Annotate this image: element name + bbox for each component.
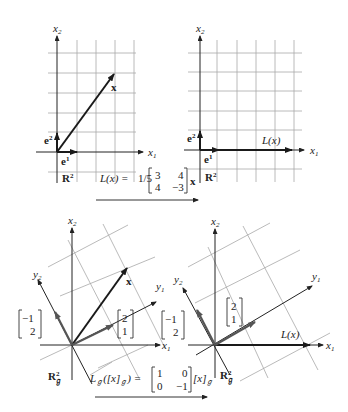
space-label-R2: R2 (205, 171, 217, 183)
matrix-cell-00: 3 (155, 169, 161, 181)
formula-lhs: L(x) = (99, 172, 129, 185)
bottom-right-panel: x2 x1 y1 y2 L(x) 2 1 −1 2 R2ℊ (162, 215, 334, 385)
vec-2-1-top: 2 (231, 300, 237, 312)
Lx-label: L(x) (280, 328, 300, 341)
formula-lhs: Lℊ([x]ℊ) = (89, 372, 141, 386)
top-transformation-formula: L(x) = 1/5 3 4 4 −3 x (96, 168, 198, 200)
matrix-cell-10: 0 (157, 380, 163, 392)
bottom-left-panel: x2 x1 y1 y2 x 2 1 −1 2 R2ℊ (19, 214, 170, 386)
x1-axis-label: x1 (147, 146, 156, 160)
vector-x-label: x (126, 275, 132, 287)
vec-neg1-2-top: −1 (22, 312, 34, 324)
y2-axis-label: y2 (32, 268, 42, 282)
matrix-cell-01: 4 (178, 169, 184, 181)
basis-vector-2-1 (215, 322, 255, 345)
e1-label: e1 (204, 153, 213, 165)
bracket-left (118, 310, 121, 338)
vec-neg1-2-bottom: 2 (30, 325, 36, 337)
bracket-right (38, 310, 41, 338)
vec-neg1-2-bottom: 2 (173, 326, 179, 338)
x2-axis-label: x2 (195, 22, 205, 36)
matrix-cell-01: 0 (182, 367, 188, 379)
x1-axis-label: x1 (309, 144, 318, 158)
top-left-panel: x2 x1 x e2 e1 R2 (36, 22, 156, 184)
matrix-right-bracket (188, 367, 191, 392)
matrix-cell-11: −1 (176, 380, 188, 392)
bottom-transformation-formula: Lℊ([x]ℊ) = 1 0 0 −1 [x]ℊ (89, 362, 213, 397)
x2-axis-label: x2 (52, 22, 62, 36)
skew-grid-lines (188, 223, 330, 381)
matrix-cell-10: 4 (155, 181, 161, 193)
bracket-right (239, 298, 242, 326)
y2-axis (183, 288, 230, 375)
basis-vector-neg1-2 (197, 310, 215, 345)
vec-2-1-bottom: 1 (231, 313, 237, 325)
scalar-fraction: 1/5 (138, 172, 153, 184)
linear-transformation-figure: x2 x1 x e2 e1 R2 x2 x1 L(x) e2 e1 (0, 0, 348, 412)
vector-x-label: x (111, 81, 117, 93)
e2-label: e2 (187, 132, 196, 144)
bracket-right (181, 311, 184, 339)
e2-label: e2 (44, 134, 53, 146)
space-label-R2-basis: R2ℊ (48, 370, 62, 386)
matrix-left-bracket (152, 367, 155, 392)
vec-2-1-top: 2 (122, 312, 128, 324)
y1-axis-label: y1 (311, 270, 320, 284)
matrix-right-bracket (184, 168, 187, 193)
Lx-label: L(x) (261, 134, 281, 147)
x1-axis-label: x1 (161, 339, 170, 353)
vec-neg1-2-top: −1 (165, 313, 177, 325)
x2-axis-label: x2 (67, 214, 77, 228)
e1-label: e1 (61, 155, 70, 167)
space-label-R2: R2 (62, 172, 74, 184)
formula-rhs: x (190, 175, 196, 187)
formula-rhs: [x]ℊ (193, 372, 213, 386)
x1-axis-label: x1 (325, 339, 334, 353)
bracket-left (227, 298, 230, 326)
matrix-cell-11: −3 (172, 181, 184, 193)
y1-axis-label: y1 (155, 280, 164, 294)
top-right-panel: x2 x1 L(x) e2 e1 R2 (184, 22, 318, 183)
space-label-R2-basis: R2ℊ (220, 369, 234, 385)
matrix-cell-00: 1 (157, 367, 163, 379)
basis-vector-neg1-2 (55, 312, 72, 345)
x2-axis-label: x2 (210, 215, 220, 229)
y2-axis-label: y2 (173, 273, 183, 287)
vec-2-1-bottom: 1 (122, 325, 128, 337)
